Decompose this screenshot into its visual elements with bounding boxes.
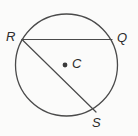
circle-geometry-diagram: R Q C S bbox=[0, 0, 138, 136]
center-label-C: C bbox=[72, 57, 81, 70]
vertex-label-S: S bbox=[92, 116, 101, 129]
vertex-label-R: R bbox=[6, 30, 15, 43]
chord-RS bbox=[22, 40, 96, 113]
center-point-dot bbox=[63, 63, 68, 68]
geometry-canvas bbox=[0, 0, 138, 136]
vertex-label-Q: Q bbox=[117, 31, 127, 44]
